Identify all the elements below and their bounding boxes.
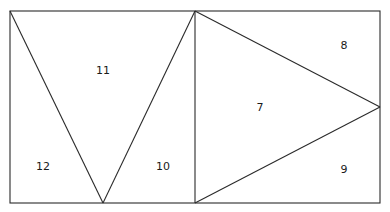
region-label-7: 7 [257, 101, 264, 114]
region-label-12: 12 [36, 160, 50, 173]
right-triangle-edge-top [195, 11, 380, 107]
region-label-8: 8 [341, 39, 348, 52]
region-label-11: 11 [96, 64, 110, 77]
left-v-edge-left [10, 11, 103, 203]
region-label-9: 9 [341, 163, 348, 176]
left-v-edge-right [103, 11, 195, 203]
region-label-10: 10 [156, 160, 170, 173]
tiling-diagram: 11 12 10 8 7 9 [0, 0, 390, 212]
right-triangle-edge-bottom [195, 107, 380, 203]
